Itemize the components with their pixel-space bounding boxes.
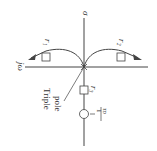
locus-branch-r1: [31, 49, 84, 67]
root-locus-diagram: σ jω r₁ r₂ r₃ Triple pole 1 τᴅ: [0, 0, 157, 151]
zero-marker: [80, 110, 89, 119]
arrow-icon: [133, 54, 142, 60]
marker-r3: [80, 86, 88, 94]
triple-pole-label-1: Triple: [42, 88, 52, 110]
triple-pole-label-2: pole: [53, 96, 63, 112]
sigma-label: σ: [81, 11, 91, 16]
triple-pole-leader: [64, 67, 84, 101]
r2-label: r₂: [117, 39, 127, 46]
arrow-icon: [28, 54, 36, 60]
marker-r1: [42, 53, 50, 61]
locus-branch-r2: [84, 49, 138, 67]
r3-label: r₃: [89, 86, 99, 93]
jomega-label: jω: [16, 61, 26, 71]
zero-label-den: τᴅ: [101, 108, 109, 115]
marker-r2: [117, 53, 125, 61]
r1-label: r₁: [43, 39, 53, 46]
